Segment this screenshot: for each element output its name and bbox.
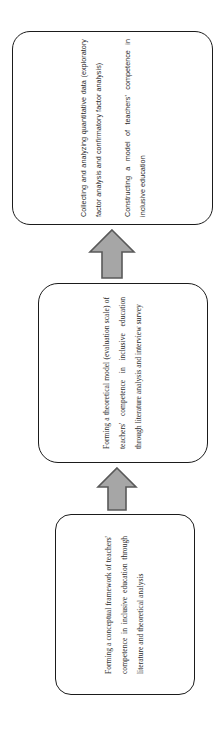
flow-node-model-text: Forming a theoretical model (evaluation … xyxy=(99,297,147,449)
arrow-up-icon xyxy=(96,466,138,512)
flow-node-analysis-text: Collecting and analyzing quantitative da… xyxy=(76,39,150,217)
flow-node-theoretical-model[interactable]: Forming a theoretical model (evaluation … xyxy=(38,283,208,463)
flow-node-framework-text: Forming a conceptual framework of teache… xyxy=(101,536,149,674)
flow-node-analysis-paragraph-1: Collecting and analyzing quantitative da… xyxy=(76,39,106,217)
flow-node-analysis-paragraph-2: Constructing a model of teachers' compet… xyxy=(120,39,150,217)
flow-node-conceptual-framework[interactable]: Forming a conceptual framework of teache… xyxy=(55,514,195,695)
arrow-up-icon xyxy=(88,228,136,280)
arrow-up-framework-to-model xyxy=(96,466,138,512)
flowchart-canvas: Collecting and analyzing quantitative da… xyxy=(0,0,223,729)
flow-node-quantitative-analysis[interactable]: Collecting and analyzing quantitative da… xyxy=(12,31,213,225)
arrow-up-model-to-analysis xyxy=(88,228,136,280)
